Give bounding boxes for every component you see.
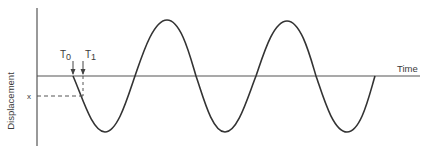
t1-arrow-icon (81, 61, 86, 75)
x-axis-label: Time (397, 63, 418, 74)
t1-label: T1 (85, 49, 96, 62)
t0-arrow-icon (71, 61, 76, 75)
y-axis-label: Displacement (5, 72, 16, 130)
displacement-time-diagram: T0 T1 x Time Displacement (0, 0, 435, 152)
t0-label: T0 (60, 49, 71, 62)
x-level-label: x (27, 92, 31, 101)
